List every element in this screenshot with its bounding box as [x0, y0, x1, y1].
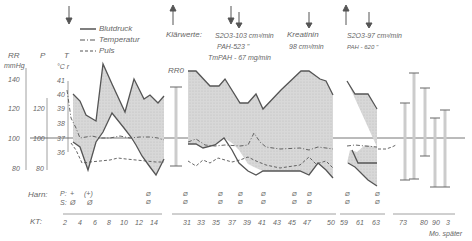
legend-puls: Puls: [99, 47, 115, 55]
t-tick: 41: [57, 77, 65, 84]
klaerwerte-line3: TmPAH - 67 mg/min: [208, 54, 271, 61]
kt-tick: 4: [78, 219, 82, 226]
harn-s-value: Ø: [183, 199, 188, 205]
harn-p-value: Ø: [238, 191, 243, 197]
harn-p-value: Ø: [261, 191, 266, 197]
harn-p-value: Ø: [375, 191, 380, 197]
harn-p-value: Ø: [345, 191, 350, 197]
kt-tick: 2: [63, 219, 67, 226]
harn-s-value: Ø: [307, 199, 312, 205]
harn-p-value: Ø: [146, 191, 151, 197]
kt-tick: 14: [150, 219, 158, 226]
harn-label: Harn:: [28, 191, 48, 199]
harn-p-value: (+): [84, 190, 93, 197]
rr-tick: 100: [8, 135, 20, 142]
kt-tick: 41: [258, 219, 266, 226]
kt-tick: 10: [120, 219, 128, 226]
harn-s-value: Ø: [218, 199, 223, 205]
p-tick: 100: [33, 135, 45, 142]
harn-p-value: Ø: [183, 191, 188, 197]
axis-t-label: T: [64, 52, 69, 60]
harn-s-value: Ø: [238, 199, 243, 205]
rr-tick: 120: [8, 105, 20, 112]
kt-tick: 33: [197, 219, 205, 226]
kt-tick: 31: [183, 219, 191, 226]
harn-s-value: Ø: [70, 199, 75, 206]
bp-band-seg2: [188, 71, 333, 178]
klaerwerte-line1: S2O3-103 cm³/min: [215, 32, 274, 39]
harn-p-value: +: [70, 190, 74, 197]
legend-temperatur: Temperatur: [99, 36, 140, 44]
t-tick: 36: [57, 149, 65, 156]
harn-s-label: S:: [60, 199, 67, 206]
kt-tick: 61: [356, 219, 364, 226]
harn-p-value: Ø: [218, 191, 223, 197]
klaerwerte-line2: PAH-523 ": [217, 43, 249, 50]
harn-s-value: Ø: [292, 199, 297, 205]
legend-blutdruck: Blutdruck: [99, 25, 132, 33]
p-tick: 120: [33, 105, 45, 112]
harn-s-value: Ø: [345, 199, 350, 205]
kt-tick: 35: [212, 219, 220, 226]
kt-tick: 43: [273, 219, 281, 226]
bp-band-seg1: [73, 64, 164, 175]
t-tick: 40: [57, 91, 65, 98]
kt-tick: 45: [288, 219, 296, 226]
rr0-label: RR0: [168, 67, 184, 75]
harn-s-value: Ø: [261, 199, 266, 205]
harn-s-value: Ø: [146, 199, 151, 205]
kt-tick: 3: [446, 219, 450, 226]
klaerwerte-title: Klärwerte:: [166, 31, 202, 39]
kreatinin-value: 98 cm³/min: [289, 43, 324, 50]
kt-tick: 6: [93, 219, 97, 226]
kt-tick: 73: [399, 219, 407, 226]
axis-rr-label: RR: [8, 52, 20, 60]
bp-band-seg3: [347, 81, 377, 186]
axis-rr-unit: mmHg: [4, 62, 25, 69]
kt-tick: 8: [107, 219, 111, 226]
t-tick: 38: [57, 120, 65, 127]
kt-tick: 37: [228, 219, 236, 226]
kt-tick: 90: [432, 219, 440, 226]
klaer2-line1: S2O3-97 cm³/min: [347, 32, 402, 39]
kt-tick: 47: [303, 219, 311, 226]
harn-s-value: Ø: [87, 199, 92, 206]
harn-s-value: Ø: [375, 199, 380, 205]
kreatinin-title: Kreatinin: [287, 31, 319, 39]
t-tick: 37: [57, 135, 65, 142]
klaer2-line2: PAH - 620 ": [347, 44, 378, 50]
kt-tick: 39: [243, 219, 251, 226]
kt-tick: 12: [135, 219, 143, 226]
axis-p-label: P: [40, 52, 45, 60]
kt-tick: 63: [372, 219, 380, 226]
harn-p-value: Ø: [292, 191, 297, 197]
t-tick: 39: [57, 105, 65, 112]
harn-p-label: P:: [60, 190, 67, 197]
harn-p-value: Ø: [307, 191, 312, 197]
kt-tick: 80: [420, 219, 428, 226]
p-tick: 80: [36, 165, 44, 172]
rr-tick: 80: [12, 165, 20, 172]
kt-label: KT:: [30, 218, 42, 226]
kt-tick: 59: [340, 219, 348, 226]
kt-tick: 50: [327, 219, 335, 226]
mo-spaeter-label: Mo. später: [429, 230, 462, 237]
axis-t-unit: °C r: [57, 63, 69, 70]
rr-tick: 140: [8, 76, 20, 83]
